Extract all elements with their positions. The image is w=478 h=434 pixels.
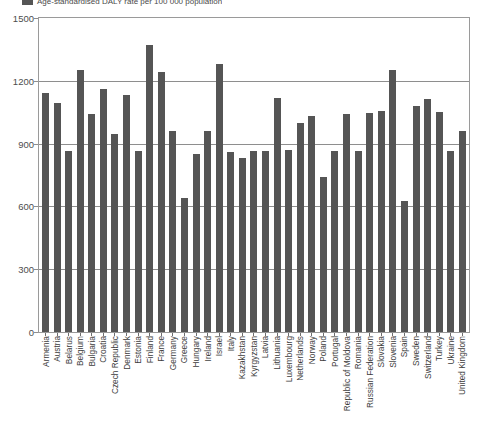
x-tick: Slovenia <box>389 336 396 434</box>
bar <box>77 70 84 332</box>
x-tick-label: Sweden <box>412 336 420 366</box>
bar <box>54 103 61 332</box>
bar <box>436 112 443 332</box>
x-tick: Austria <box>54 336 61 434</box>
bar <box>331 151 338 332</box>
x-tick-label: Republic of Moldova <box>343 336 351 411</box>
bar <box>459 131 466 332</box>
bar <box>355 151 362 332</box>
x-tick-label: Latvia <box>261 336 269 358</box>
bar <box>169 131 176 332</box>
x-tick-label: Russian Federation <box>366 336 374 408</box>
x-tick: Ireland <box>204 336 211 434</box>
x-tick-label: Norway <box>308 336 316 364</box>
bar <box>401 201 408 332</box>
x-tick-label: Czech Republic <box>111 336 119 394</box>
x-tick: Bulgaria <box>88 336 95 434</box>
x-tick-label: Netherlands <box>296 336 304 381</box>
bar <box>308 116 315 332</box>
x-tick: Sweden <box>413 336 420 434</box>
bar <box>146 45 153 332</box>
x-tick-label: Estonia <box>134 336 142 364</box>
y-tick-label: 900 <box>18 138 34 149</box>
y-tick-label: 300 <box>18 264 34 275</box>
x-tick: France <box>158 336 165 434</box>
x-tick: Ukraine <box>447 336 454 434</box>
bar <box>193 154 200 332</box>
x-tick-label: Bulgaria <box>88 336 96 366</box>
bar <box>65 151 72 332</box>
bar <box>274 98 281 332</box>
x-tick: Armenia <box>42 336 49 434</box>
x-axis: ArmeniaAustriaBelarusBelgiumBulgariaCroa… <box>39 336 469 434</box>
x-tick-label: Italy <box>227 336 235 351</box>
x-tick: Croatia <box>100 336 107 434</box>
x-tick: Israel <box>216 336 223 434</box>
x-tick: Denmark <box>123 336 130 434</box>
x-tick: Netherlands <box>297 336 304 434</box>
bar <box>285 150 292 332</box>
bar <box>88 114 95 332</box>
x-tick: Italy <box>227 336 234 434</box>
x-tick-label: Slovenia <box>389 336 397 368</box>
x-tick: Norway <box>308 336 315 434</box>
x-tick-label: Lithuania <box>273 336 281 370</box>
x-tick-label: Finland <box>146 336 154 363</box>
x-tick-label: France <box>157 336 165 362</box>
x-tick: Czech Republic <box>111 336 118 434</box>
x-tick: Estonia <box>135 336 142 434</box>
x-tick-label: Croatia <box>99 336 107 363</box>
x-tick: Finland <box>146 336 153 434</box>
x-tick: Slovakia <box>378 336 385 434</box>
x-tick-label: Romania <box>354 336 362 369</box>
x-tick-label: Ukraine <box>447 336 455 365</box>
bar <box>111 134 118 332</box>
x-tick-label: United Kingdom <box>458 336 466 395</box>
x-tick: Poland <box>320 336 327 434</box>
x-tick-label: Poland <box>319 336 327 362</box>
bar <box>250 151 257 332</box>
x-tick-label: Armenia <box>42 336 50 367</box>
x-tick: Hungary <box>193 336 200 434</box>
x-tick-label: Switzerland <box>424 336 432 379</box>
bar <box>447 151 454 332</box>
bar <box>42 93 49 332</box>
x-tick: Lithuania <box>274 336 281 434</box>
x-tick: Spain <box>401 336 408 434</box>
x-tick-label: Kyrgyzstan <box>250 336 258 377</box>
x-tick: Greece <box>181 336 188 434</box>
x-tick: Germany <box>169 336 176 434</box>
y-tick-label: 600 <box>18 201 34 212</box>
x-tick: Turkey <box>436 336 443 434</box>
x-tick-label: Kazakhstan <box>238 336 246 379</box>
x-tick: Kyrgyzstan <box>250 336 257 434</box>
x-tick-label: Spain <box>400 336 408 357</box>
x-tick-label: Belarus <box>65 336 73 364</box>
y-axis: 030060090012001500 <box>0 0 34 434</box>
x-tick-label: Denmark <box>123 336 131 370</box>
bar <box>343 114 350 332</box>
x-tick: Romania <box>355 336 362 434</box>
bar <box>378 111 385 332</box>
x-tick: United Kingdom <box>459 336 466 434</box>
x-tick-label: Luxembourg <box>285 336 293 382</box>
bar <box>239 158 246 332</box>
x-tick-label: Ireland <box>204 336 212 361</box>
bar <box>262 151 269 332</box>
x-tick: Switzerland <box>424 336 431 434</box>
bar <box>413 106 420 332</box>
bar <box>204 131 211 332</box>
x-tick: Republic of Moldova <box>343 336 350 434</box>
legend-label: Age-standardised DALY rate per 100 000 p… <box>37 0 222 6</box>
bar <box>389 70 396 332</box>
bar <box>366 113 373 332</box>
bar <box>123 95 130 332</box>
bar <box>297 123 304 332</box>
bar <box>424 99 431 332</box>
x-tick: Belgium <box>77 336 84 434</box>
bar-series <box>39 18 469 332</box>
x-tick: Latvia <box>262 336 269 434</box>
x-tick: Kazakhstan <box>239 336 246 434</box>
x-tick-label: Greece <box>180 336 188 363</box>
x-tick-label: Belgium <box>76 336 84 366</box>
